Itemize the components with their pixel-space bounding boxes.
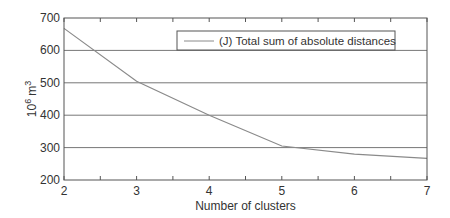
y-axis-title: 106m3 bbox=[23, 81, 39, 117]
y-axis-title-base: 10 bbox=[25, 104, 39, 118]
y-tick-label: 700 bbox=[40, 11, 60, 25]
x-tick-label: 2 bbox=[61, 184, 68, 198]
x-axis-tick-labels: 234567 bbox=[61, 184, 431, 198]
grid-lines bbox=[64, 50, 427, 147]
y-axis-title-exp1: 6 bbox=[23, 99, 33, 104]
y-axis-title-unit: m bbox=[25, 86, 39, 96]
legend-label: (J) Total sum of absolute distances bbox=[219, 35, 396, 47]
y-axis-title-exp2: 3 bbox=[23, 81, 33, 86]
x-axis-title: Number of clusters bbox=[195, 199, 296, 213]
y-axis-tick-labels: 200300400500600700 bbox=[40, 11, 60, 187]
x-tick-label: 4 bbox=[206, 184, 213, 198]
x-tick-label: 6 bbox=[351, 184, 358, 198]
y-tick-label: 300 bbox=[40, 141, 60, 155]
y-tick-label: 200 bbox=[40, 173, 60, 187]
x-tick-label: 5 bbox=[278, 184, 285, 198]
y-tick-label: 500 bbox=[40, 76, 60, 90]
y-tick-label: 600 bbox=[40, 43, 60, 57]
y-tick-label: 400 bbox=[40, 108, 60, 122]
x-tick-label: 3 bbox=[133, 184, 140, 198]
line-chart: 200300400500600700 234567 Number of clus… bbox=[0, 0, 450, 218]
x-tick-label: 7 bbox=[424, 184, 431, 198]
legend: (J) Total sum of absolute distances bbox=[177, 31, 396, 50]
